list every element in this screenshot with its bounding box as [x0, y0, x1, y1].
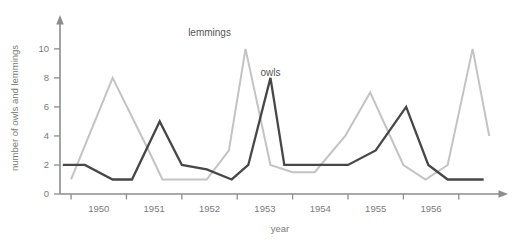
x-tick-label: 1951 — [144, 203, 165, 214]
y-tick-label: 6 — [44, 101, 49, 112]
x-axis-arrowhead — [499, 190, 509, 197]
y-axis-arrowhead — [56, 15, 64, 25]
y-tick-label: 0 — [44, 188, 49, 199]
y-tick-group: 0246810 — [38, 43, 60, 199]
series-label-lemmings: lemmings — [188, 27, 231, 38]
x-axis-group: 1950195119521953195419551956 — [60, 190, 508, 214]
series-label-owls: owls — [260, 67, 280, 78]
x-tick-label: 1952 — [199, 203, 220, 214]
x-tick-label: 1956 — [421, 203, 442, 214]
x-tick-label: 1955 — [365, 203, 386, 214]
x-tick-label: 1950 — [88, 203, 109, 214]
y-tick-label: 8 — [44, 72, 49, 83]
y-tick-label: 4 — [44, 130, 49, 141]
y-tick-label: 10 — [38, 43, 49, 54]
x-tick-label: 1953 — [254, 203, 275, 214]
y-tick-label: 2 — [44, 159, 49, 170]
series-line-owls — [63, 78, 484, 180]
x-axis-title: year — [271, 223, 289, 234]
chart-canvas: 0246810 1950195119521953195419551956 lem… — [0, 0, 522, 246]
x-tick-label: 1954 — [310, 203, 331, 214]
y-axis-group: 0246810 — [38, 15, 63, 199]
y-axis-title: number of owls and lemmings — [9, 45, 20, 171]
x-tick-group: 1950195119521953195419551956 — [71, 194, 459, 214]
population-line-chart: 0246810 1950195119521953195419551956 lem… — [0, 0, 522, 246]
series-annotation-group: lemmingsowls — [188, 27, 280, 79]
